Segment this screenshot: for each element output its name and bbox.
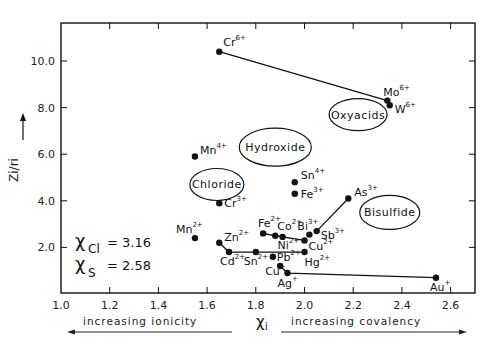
data-point-marker [192,153,198,159]
ionicity-label: increasing ionicity [83,315,197,327]
y-tick-label: 8.0 [38,102,56,115]
point-label: W6+ [395,101,416,116]
point-label: Hg2+ [305,254,331,269]
point-label: Fe3+ [301,186,324,201]
svg-text:χ: χ [75,230,85,251]
data-point-marker [260,230,266,236]
data-point-marker [216,48,222,54]
x-tick-label: 1.6 [198,299,216,312]
data-point-marker [345,195,351,201]
region-label: Chloride [192,178,242,191]
x-axis-label: χ i [256,313,268,332]
data-point-marker [270,254,276,260]
point-label: Cd2+ [220,253,245,268]
scatter-chart: 1.01.21.41.61.82.02.22.42.62.04.06.08.01… [0,0,492,350]
data-point-marker [292,179,298,185]
svg-text:χ: χ [75,253,85,274]
point-label: Zn2+ [224,229,249,244]
svg-text:Cl: Cl [88,242,100,256]
point-label: Sn4+ [301,167,325,182]
left-arrow-icon [67,330,232,335]
svg-text:i: i [265,321,268,332]
data-point-marker [284,270,290,276]
y-tick-label: 2.0 [38,241,56,254]
connecting-line [219,52,387,101]
x-tick-label: 1.4 [150,299,168,312]
point-label: Cr3+ [224,195,247,210]
x-tick-label: 2.0 [296,299,314,312]
region-label: Hydroxide [245,141,305,154]
data-point-marker [301,237,307,243]
point-label: Cu+ [265,263,286,278]
point-label: Pb2+ [277,249,301,264]
data-point-marker [216,240,222,246]
y-tick-label: 10.0 [31,55,56,68]
svg-text:S: S [88,266,96,280]
data-point-marker [192,235,198,241]
svg-text:χ: χ [256,313,265,331]
x-tick-label: 2.6 [442,299,460,312]
chi-s-annotation: χ S = 2.58 [75,253,151,280]
up-arrow-icon [20,113,26,140]
x-tick-label: 1.0 [52,299,70,312]
chi-cl-annotation: χ Cl = 3.16 [75,230,151,256]
region-label: Bisulfide [364,206,416,219]
y-axis-label-text: Zi/ri [7,158,21,182]
region-label: Oxyacids [331,109,385,122]
data-point-marker [292,191,298,197]
x-tick-label: 2.2 [344,299,362,312]
svg-text:= 2.58: = 2.58 [107,258,151,273]
right-arrow-icon [281,330,467,335]
data-point-marker [387,102,393,108]
data-point-marker [313,228,319,234]
covalency-label: increasing covalency [291,315,421,327]
point-label: Ag+ [277,275,298,290]
point-label: Mn2+ [176,221,203,236]
data-points: Cr6+Mo6+W6+Mn4+Sn4+Fe3+Cr3+As3+Sb3+Bi3+F… [176,34,451,294]
y-tick-label: 6.0 [38,148,56,161]
x-tick-label: 1.2 [101,299,119,312]
data-point-marker [301,249,307,255]
x-tick-label: 2.4 [393,299,411,312]
data-point-marker [216,200,222,206]
y-axis-label: Zi/ri [7,158,21,182]
point-label: Cr6+ [223,34,246,49]
point-label: Mn4+ [200,142,227,157]
point-label: Au+ [430,279,451,294]
axis-ticks: 1.01.21.41.61.82.02.22.42.62.04.06.08.01… [31,23,476,312]
svg-text:= 3.16: = 3.16 [107,235,151,250]
x-tick-label: 1.8 [247,299,265,312]
y-tick-label: 4.0 [38,195,56,208]
point-label: Mo6+ [383,84,410,99]
point-label: Cu2+ [309,238,334,253]
